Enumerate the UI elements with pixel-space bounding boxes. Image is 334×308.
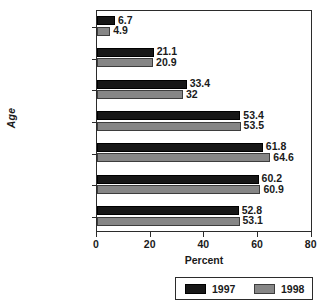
plot-area: 12–136.74.914–1521.120.916–1733.43218–20…: [96, 10, 312, 232]
legend-label: 1998: [281, 283, 304, 295]
x-axis-tick: [257, 232, 258, 237]
bar-1998: [97, 185, 260, 194]
chart-legend: 19971998: [175, 277, 313, 300]
x-axis-tick: [96, 232, 97, 237]
bar-value-label: 60.2: [262, 174, 282, 183]
bar-value-label: 53.5: [244, 121, 264, 130]
x-axis-tick-label: 60: [237, 238, 277, 250]
bar-1997: [97, 175, 259, 184]
bar-value-label: 21.1: [157, 47, 177, 56]
bar-value-label: 60.9: [263, 185, 283, 194]
legend-swatch-icon: [185, 284, 206, 294]
x-axis-tick: [150, 232, 151, 237]
x-axis-tick-label: 80: [291, 238, 331, 250]
bar-group: 21–2561.864.6: [97, 138, 311, 170]
bar-1998: [97, 27, 110, 36]
x-axis-tick-label: 0: [76, 238, 116, 250]
bar-1997: [97, 80, 187, 89]
bar-value-label: 53.1: [243, 216, 263, 225]
x-axis-tick: [311, 232, 312, 237]
y-axis-title: Age: [5, 98, 17, 138]
bar-value-label: 64.6: [273, 153, 293, 162]
bar-group: 35 & older52.853.1: [97, 201, 311, 233]
bar-group: 16–1733.432: [97, 74, 311, 106]
bar-group: 14–1521.120.9: [97, 43, 311, 75]
legend-swatch-icon: [254, 284, 275, 294]
bar-chart: Age 12–136.74.914–1521.120.916–1733.4321…: [0, 0, 334, 308]
x-axis-tick-label: 20: [130, 238, 170, 250]
bar-1997: [97, 111, 240, 120]
bar-group: 12–136.74.9: [97, 11, 311, 43]
bar-value-label: 4.9: [113, 26, 128, 35]
bar-value-label: 33.4: [190, 79, 210, 88]
bar-1998: [97, 58, 153, 67]
bar-1998: [97, 153, 270, 162]
bar-1997: [97, 206, 239, 215]
bar-1998: [97, 122, 241, 131]
legend-label: 1997: [212, 283, 235, 295]
bar-value-label: 32: [186, 90, 198, 99]
x-axis-tick: [203, 232, 204, 237]
bar-value-label: 20.9: [156, 58, 176, 67]
x-axis-title: Percent: [96, 254, 312, 266]
bar-group: 26–3460.260.9: [97, 170, 311, 202]
bar-1998: [97, 90, 183, 99]
x-axis-tick-label: 40: [183, 238, 223, 250]
bar-1998: [97, 217, 240, 226]
bar-1997: [97, 143, 263, 152]
bar-group: 18–2053.453.5: [97, 106, 311, 138]
bar-1997: [97, 48, 154, 57]
